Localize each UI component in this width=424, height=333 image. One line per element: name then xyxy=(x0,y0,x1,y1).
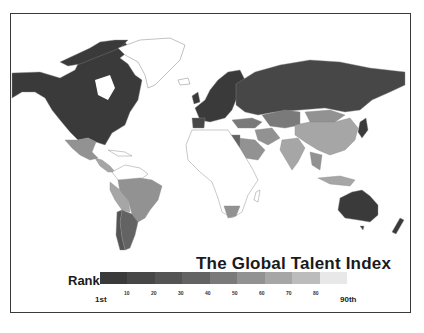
legend-start-label: 1st xyxy=(95,295,107,304)
region-uk xyxy=(192,92,200,104)
region-madagascar xyxy=(254,190,260,202)
legend-tick: 50 xyxy=(232,290,238,296)
region-turkey xyxy=(232,118,262,128)
legend-tick: 10 xyxy=(124,290,130,296)
legend-cell-6 xyxy=(237,272,264,284)
legend-cell-4 xyxy=(182,272,209,284)
region-new-zealand xyxy=(392,218,404,234)
legend-cell-3 xyxy=(155,272,182,284)
region-japan xyxy=(358,118,368,138)
region-tasmania xyxy=(360,226,364,230)
region-iceland xyxy=(178,78,190,85)
legend-cell-9 xyxy=(320,272,347,284)
legend-tick: 70 xyxy=(286,290,292,296)
legend-cell-5 xyxy=(210,272,237,284)
region-iran xyxy=(255,128,280,145)
legend-cell-1 xyxy=(100,272,127,284)
region-russia xyxy=(236,60,405,115)
region-mexico xyxy=(65,138,98,160)
region-indonesia xyxy=(318,176,355,186)
region-australia xyxy=(338,190,378,222)
legend-tick: 40 xyxy=(205,290,211,296)
region-india xyxy=(280,138,305,170)
region-mongolia xyxy=(305,110,345,122)
map-title: The Global Talent Index xyxy=(196,254,391,274)
legend-tick: 20 xyxy=(151,290,157,296)
region-south-africa xyxy=(224,206,240,218)
legend-tick: 60 xyxy=(259,290,265,296)
region-caribbean xyxy=(108,150,132,156)
legend-cell-7 xyxy=(265,272,292,284)
region-southeast-asia xyxy=(310,152,322,170)
legend-cell-8 xyxy=(292,272,319,284)
region-central-america xyxy=(95,158,115,172)
legend-end-label: 90th xyxy=(340,295,356,304)
legend-cell-2 xyxy=(127,272,154,284)
region-iberia xyxy=(192,118,205,128)
legend-tick: 80 xyxy=(313,290,319,296)
legend-rank-label: Rank xyxy=(68,273,100,288)
legend-color-bar xyxy=(100,272,347,284)
legend-tick: 30 xyxy=(178,290,184,296)
